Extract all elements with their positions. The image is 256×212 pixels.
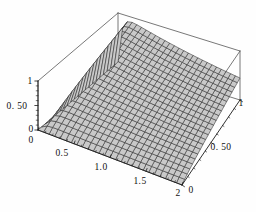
z-tick-0: 0 [28, 124, 33, 134]
x-tick-15: 1.5 [133, 176, 146, 186]
surface-plot-figure: 1 0. 50 0 0 0.5 1.0 1.5 2 0 0. 50 1 [0, 0, 256, 212]
z-tick-1: 1 [27, 76, 32, 86]
x-tick-2: 2 [175, 188, 180, 198]
y-tick-050: 0. 50 [211, 142, 232, 152]
x-tick-10: 1.0 [94, 162, 107, 172]
tick-label-layer: 1 0. 50 0 0 0.5 1.0 1.5 2 0 0. 50 1 [0, 0, 256, 212]
y-tick-0: 0 [188, 185, 193, 195]
x-tick-0: 0 [28, 135, 33, 145]
y-tick-1: 1 [238, 98, 243, 108]
x-tick-05: 0.5 [55, 148, 68, 158]
z-tick-050: 0. 50 [7, 101, 28, 111]
